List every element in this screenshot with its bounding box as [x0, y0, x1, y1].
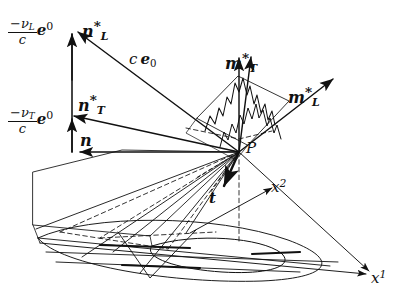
label-axis-x1: x1	[371, 268, 386, 287]
label-P: P	[246, 139, 256, 157]
label-n-star-L: n*L	[82, 18, 108, 43]
label-m-star-T: m*T	[225, 50, 257, 75]
label-n-star-T: n*T	[78, 92, 105, 117]
crack-front-jagged-curve	[205, 78, 275, 131]
label-minus-nu-L-over-c-e0: −νL c e0	[8, 17, 53, 47]
label-minus-nu-T-over-c-e0: −νT c e0	[8, 106, 53, 136]
axis-x1-secondary	[40, 243, 366, 274]
label-axis-x2: x2	[271, 177, 286, 196]
label-m-star-L: m*L	[288, 84, 320, 109]
vector-diagram-svg	[0, 0, 411, 305]
diagram-canvas: −νL c e0 −νT c e0 n*L n*T n c e0 m*T m*L…	[0, 0, 411, 305]
tangent-plane-outline	[197, 76, 289, 145]
label-t: t	[209, 189, 216, 207]
label-c-e0: c e0	[129, 50, 156, 69]
label-n: n	[80, 131, 92, 150]
